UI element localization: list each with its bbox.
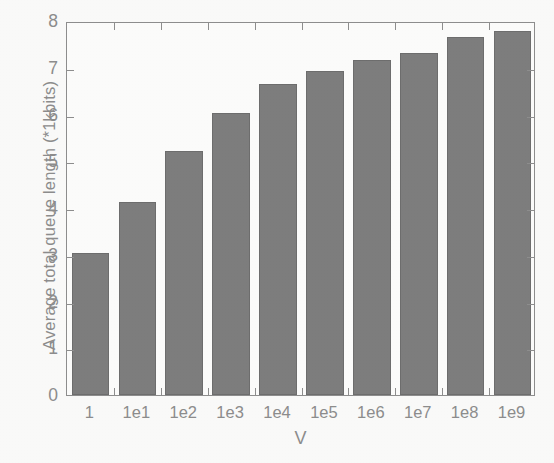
x-tick-label: 1e6 (347, 404, 394, 421)
x-tick-mark-top (114, 23, 115, 30)
x-tick-mark (395, 388, 396, 395)
x-tick-mark-top (255, 23, 256, 30)
y-tick-label: 0 (28, 387, 58, 405)
y-tick-mark-right (527, 70, 534, 71)
x-tick-label: 1 (66, 404, 113, 421)
x-tick-mark (348, 388, 349, 395)
bar-1e8[interactable] (447, 37, 485, 395)
x-tick-mark-top (489, 23, 490, 30)
x-tick-mark (489, 388, 490, 395)
x-tick-mark (255, 388, 256, 395)
x-tick-mark (442, 388, 443, 395)
y-tick-mark (67, 257, 74, 258)
x-tick-label: 1e9 (488, 404, 535, 421)
y-tick-label: 5 (28, 153, 58, 171)
bar-1e5[interactable] (306, 71, 344, 395)
x-tick-mark-top (161, 23, 162, 30)
y-tick-mark (67, 304, 74, 305)
x-tick-mark (208, 388, 209, 395)
x-tick-label: 1e4 (254, 404, 301, 421)
figure-canvas: Average total queue length (*1kbits) 012… (0, 0, 554, 463)
plot-area (67, 23, 534, 395)
y-tick-mark-right (527, 350, 534, 351)
x-tick-mark (161, 388, 162, 395)
y-tick-mark-right (527, 163, 534, 164)
x-tick-label: 1e3 (207, 404, 254, 421)
bar-1e9[interactable] (494, 31, 532, 395)
x-tick-mark-top (442, 23, 443, 30)
y-tick-label: 3 (28, 247, 58, 265)
x-tick-label: 1e1 (113, 404, 160, 421)
y-tick-mark (67, 210, 74, 211)
bar-1e3[interactable] (212, 113, 250, 395)
y-tick-label: 2 (28, 294, 58, 312)
x-axis-title: V (66, 428, 535, 449)
plot-frame (66, 22, 535, 396)
x-tick-label: 1e5 (301, 404, 348, 421)
x-tick-label: 1e8 (441, 404, 488, 421)
x-tick-label: 1e2 (160, 404, 207, 421)
x-tick-mark-top (395, 23, 396, 30)
bar-1e4[interactable] (259, 84, 297, 395)
y-tick-mark (67, 70, 74, 71)
y-tick-label: 6 (28, 107, 58, 125)
x-tick-mark-top (208, 23, 209, 30)
y-tick-mark-right (527, 257, 534, 258)
y-tick-label: 7 (28, 60, 58, 78)
y-tick-label: 8 (28, 13, 58, 31)
x-tick-label: 1e7 (394, 404, 441, 421)
y-tick-mark-right (527, 304, 534, 305)
x-tick-mark (302, 388, 303, 395)
y-tick-mark (67, 163, 74, 164)
y-tick-mark (67, 117, 74, 118)
y-tick-mark-right (527, 117, 534, 118)
y-tick-mark-right (527, 210, 534, 211)
bar-1[interactable] (72, 253, 110, 395)
bar-1e1[interactable] (119, 202, 157, 395)
y-tick-label: 1 (28, 340, 58, 358)
x-tick-mark-top (302, 23, 303, 30)
bar-1e6[interactable] (353, 60, 391, 395)
bar-1e2[interactable] (165, 151, 203, 395)
x-tick-mark (114, 388, 115, 395)
y-tick-label: 4 (28, 200, 58, 218)
y-tick-mark (67, 350, 74, 351)
bar-1e7[interactable] (400, 53, 438, 395)
x-tick-mark-top (348, 23, 349, 30)
